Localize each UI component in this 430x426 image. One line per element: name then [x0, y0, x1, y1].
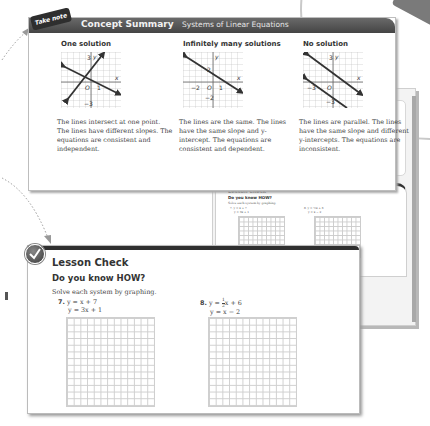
svg-text:y: y	[334, 53, 339, 61]
svg-text:O: O	[85, 84, 90, 91]
svg-text:3: 3	[329, 54, 333, 61]
graph-one-solution: 3 y x O 1 −3	[61, 52, 121, 108]
column-infinitely-many: Infinitely many solutions y 2 x −2 O 1 −…	[179, 40, 289, 154]
svg-text:O: O	[327, 84, 332, 91]
graph-grid-exercise-7[interactable]	[66, 317, 155, 407]
svg-text:−3: −3	[326, 98, 335, 105]
lesson-check-card: Lesson Check Do you know HOW? Solve each…	[27, 245, 360, 414]
exercise-number: 8.	[200, 299, 207, 307]
svg-text:x: x	[356, 74, 361, 81]
svg-text:x: x	[114, 74, 119, 81]
exercise-7-eq1: y = x + 7	[67, 298, 97, 306]
concept-summary-header: Concept Summary Systems of Linear Equati…	[29, 18, 395, 33]
svg-text:2: 2	[207, 66, 211, 73]
graph-grid-exercise-8[interactable]	[208, 317, 297, 407]
column-title: One solution	[61, 40, 167, 48]
column-title: Infinitely many solutions	[183, 40, 289, 48]
svg-text:1: 1	[219, 84, 223, 91]
lesson-check-title: Lesson Check	[52, 257, 128, 268]
exercise-7: 7. y = x + 7 y = 3x + 1	[58, 298, 102, 314]
svg-text:y: y	[214, 53, 219, 61]
svg-text:−2: −2	[205, 94, 214, 101]
svg-text:−2: −2	[191, 84, 200, 91]
lesson-check-instruction: Solve each system by graphing.	[52, 288, 157, 296]
svg-text:O: O	[207, 84, 212, 91]
column-description: The lines are parallel. The lines have t…	[299, 118, 415, 154]
concept-summary-title: Concept Summary	[81, 19, 174, 29]
column-description: The lines intersect at one point. The li…	[57, 118, 173, 154]
lesson-check-subtitle: Do you know HOW?	[52, 273, 145, 283]
exercise-number: 7.	[58, 298, 65, 306]
graph-infinitely-many: y 2 x −2 O 1 −2	[183, 52, 243, 108]
side-marker	[5, 292, 8, 300]
graph-no-solution: 3 y x −3 O −3	[303, 52, 363, 108]
column-description: The lines are the same. The lines have t…	[179, 118, 295, 154]
svg-text:3: 3	[87, 54, 91, 61]
column-one-solution: One solution 3 y x O 1 −3 The lines inte…	[57, 40, 167, 154]
exercise-8: 8. y = 12x + 6 y = x − 2	[200, 298, 242, 316]
lesson-check-topbar	[28, 246, 359, 250]
svg-text:x: x	[236, 74, 241, 81]
exercise-7-eq2: y = 3x + 1	[58, 306, 102, 314]
exercise-8-eq2: y = x − 2	[200, 308, 242, 316]
column-title: No solution	[303, 40, 409, 48]
svg-text:y: y	[92, 53, 97, 61]
svg-text:−3: −3	[307, 84, 316, 91]
svg-text:−3: −3	[84, 100, 93, 107]
svg-text:1: 1	[97, 84, 101, 91]
concept-summary-card: Concept Summary Systems of Linear Equati…	[28, 17, 396, 191]
checkmark-icon	[25, 244, 45, 264]
concept-summary-subtitle: Systems of Linear Equations	[182, 20, 289, 29]
column-no-solution: No solution 3 y x −3 O −3 The lines are …	[299, 40, 409, 154]
